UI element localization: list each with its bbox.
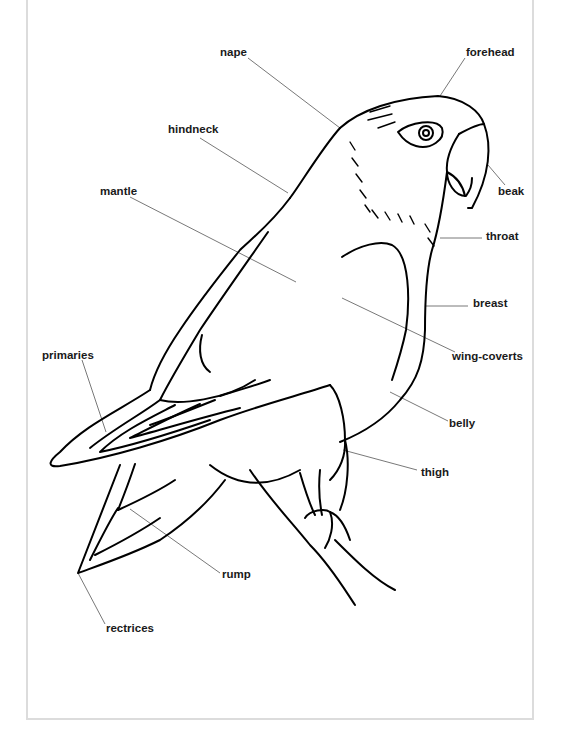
label-rectrices: rectrices (106, 623, 154, 635)
label-beak: beak (498, 186, 524, 198)
label-throat: throat (486, 231, 519, 243)
label-nape: nape (220, 47, 247, 59)
label-hindneck: hindneck (168, 124, 218, 136)
label-wing-coverts: wing-coverts (452, 351, 523, 363)
bird-outline (51, 96, 489, 605)
label-thigh: thigh (421, 467, 449, 479)
parrot-drawing (0, 0, 564, 735)
label-forehead: forehead (466, 47, 515, 59)
label-breast: breast (473, 298, 508, 310)
label-mantle: mantle (100, 186, 137, 198)
leader-lines (78, 58, 505, 624)
label-rump: rump (222, 569, 251, 581)
label-primaries: primaries (42, 350, 94, 362)
label-belly: belly (449, 418, 475, 430)
